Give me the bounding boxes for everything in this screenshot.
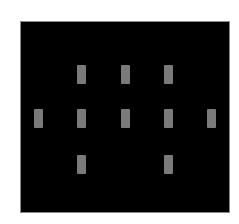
figure-canvas [0,0,239,224]
gray-rectangle-marker [121,109,130,128]
gray-rectangle-marker [77,65,86,84]
gray-rectangle-marker [121,65,130,84]
gray-rectangle-marker [207,109,216,128]
gray-rectangle-marker [77,109,86,128]
gray-rectangle-marker [34,109,43,128]
gray-rectangle-marker [164,155,173,174]
gray-rectangle-marker [164,65,173,84]
gray-rectangle-marker [77,155,86,174]
gray-rectangle-marker [164,109,173,128]
